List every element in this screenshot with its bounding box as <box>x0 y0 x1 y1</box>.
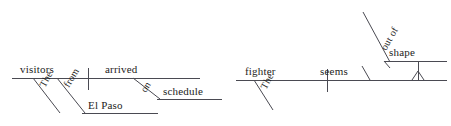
right-predicate-complement-slant <box>362 66 370 80</box>
left-object-schedule-word: schedule <box>163 86 203 97</box>
sentence-diagram-canvas: visitors The from El Paso arrived on sch… <box>0 0 451 126</box>
diagram-right-lines <box>236 12 447 110</box>
right-verb-word: seems <box>320 66 348 77</box>
right-shape-line-riser <box>384 61 390 68</box>
diagram-lines-layer <box>0 0 451 126</box>
right-predicate-complement-word: shape <box>389 47 415 58</box>
left-object-el-paso-word: El Paso <box>88 100 123 111</box>
left-verb-word: arrived <box>105 64 138 75</box>
